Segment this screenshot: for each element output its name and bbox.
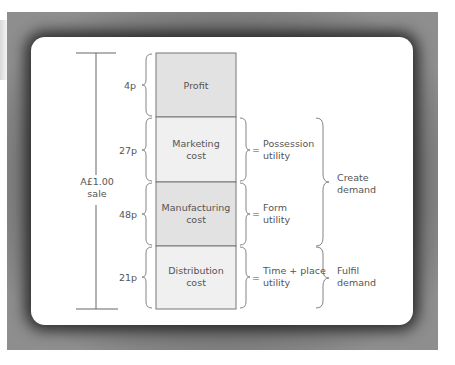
value-profit: 4p: [124, 80, 136, 92]
total-label: A£1.00 sale: [78, 176, 116, 200]
utility-form: Form utility: [263, 202, 290, 226]
value-marketing: 27p: [119, 145, 137, 157]
value-distribution: 21p: [119, 272, 137, 284]
label-distribution: Distribution cost: [156, 265, 236, 289]
group-create-demand: Create demand: [337, 172, 376, 196]
right-braces: [240, 118, 250, 308]
eq-form: =: [252, 208, 260, 220]
utility-possession: Possession utility: [263, 138, 314, 162]
eq-time-place: =: [252, 272, 260, 284]
left-braces: [142, 54, 152, 308]
group-fulfil-demand: Fulfil demand: [337, 265, 376, 289]
label-manufacturing: Manufacturing cost: [156, 202, 236, 226]
eq-possession: =: [252, 144, 260, 156]
label-profit: Profit: [156, 80, 236, 92]
label-marketing: Marketing cost: [156, 138, 236, 162]
utility-time-place: Time + place utility: [263, 265, 326, 289]
diagram-svg: [0, 0, 455, 365]
value-manufacturing: 48p: [119, 209, 137, 221]
